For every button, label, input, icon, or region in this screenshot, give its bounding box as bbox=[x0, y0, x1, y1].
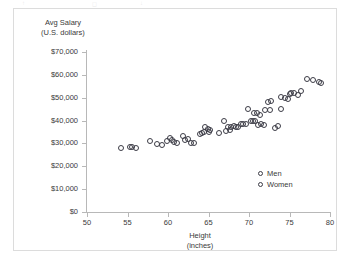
x-tick-mark bbox=[330, 213, 331, 217]
legend-item-women: Women bbox=[258, 179, 293, 190]
scatter-point bbox=[298, 88, 304, 94]
legend-circle-icon bbox=[258, 171, 263, 176]
artifact-glyph: ↓ bbox=[140, 0, 143, 6]
scatter-point bbox=[216, 130, 222, 136]
capture-artifacts: ↑◻↓ bbox=[0, 0, 351, 7]
y-tick-mark bbox=[82, 98, 86, 99]
legend-item-men: Men bbox=[258, 168, 293, 179]
scatter-point bbox=[231, 123, 237, 129]
y-tick-mark bbox=[82, 121, 86, 122]
y-axis-title-line-2: (U.S. dollars) bbox=[20, 28, 106, 38]
y-tick-label: $50,000 bbox=[51, 94, 78, 102]
y-tick-mark bbox=[82, 143, 86, 144]
plot-area bbox=[87, 52, 330, 212]
y-tick-label: $20,000 bbox=[51, 162, 78, 170]
scatter-point bbox=[268, 98, 274, 104]
scatter-point bbox=[257, 112, 263, 118]
x-tick-mark bbox=[209, 213, 210, 217]
x-axis-title-line-2: (inches) bbox=[160, 241, 240, 251]
x-tick-mark bbox=[249, 213, 250, 217]
x-tick-label: 80 bbox=[315, 219, 345, 227]
x-tick-label: 55 bbox=[113, 219, 143, 227]
scatter-point bbox=[207, 127, 213, 133]
x-tick-label: 50 bbox=[72, 219, 102, 227]
y-tick-label: $40,000 bbox=[51, 117, 78, 125]
x-axis-title-line-1: Height bbox=[160, 231, 240, 241]
y-tick-mark bbox=[82, 166, 86, 167]
scatter-point bbox=[287, 91, 293, 97]
x-tick-label: 60 bbox=[153, 219, 183, 227]
y-tick-mark bbox=[82, 52, 86, 53]
x-axis-title: Height (inches) bbox=[160, 231, 240, 251]
chart-legend: MenWomen bbox=[258, 168, 293, 190]
scatter-point bbox=[174, 140, 180, 146]
y-tick-label: $70,000 bbox=[51, 48, 78, 56]
y-tick-label: $30,000 bbox=[51, 139, 78, 147]
x-tick-label: 70 bbox=[234, 219, 264, 227]
legend-label: Women bbox=[267, 179, 293, 190]
y-tick-label: $60,000 bbox=[51, 71, 78, 79]
artifact-glyph: ◻ bbox=[92, 0, 97, 7]
scatter-point bbox=[318, 80, 324, 86]
scatter-point bbox=[118, 145, 124, 151]
x-tick-mark bbox=[290, 213, 291, 217]
y-tick-label: $10,000 bbox=[51, 185, 78, 193]
y-axis-title-line-1: Avg Salary bbox=[20, 18, 106, 28]
y-tick-mark bbox=[82, 212, 86, 213]
x-tick-mark bbox=[128, 213, 129, 217]
x-tick-label: 75 bbox=[275, 219, 305, 227]
scatter-point bbox=[275, 123, 281, 129]
scatter-point bbox=[191, 140, 197, 146]
scatter-point bbox=[261, 122, 267, 128]
y-tick-mark bbox=[82, 189, 86, 190]
y-tick-mark bbox=[82, 75, 86, 76]
x-tick-mark bbox=[87, 213, 88, 217]
x-tick-label: 65 bbox=[194, 219, 224, 227]
legend-label: Men bbox=[267, 168, 282, 179]
scatter-point bbox=[267, 107, 273, 113]
scatter-point bbox=[278, 106, 284, 112]
scatter-point bbox=[147, 138, 153, 144]
x-tick-mark bbox=[168, 213, 169, 217]
artifact-glyph: ↑ bbox=[22, 0, 25, 6]
y-axis-title: Avg Salary (U.S. dollars) bbox=[20, 18, 106, 38]
scatter-point bbox=[133, 145, 139, 151]
legend-circle-icon bbox=[258, 182, 263, 187]
y-tick-label: $0 bbox=[70, 208, 78, 216]
